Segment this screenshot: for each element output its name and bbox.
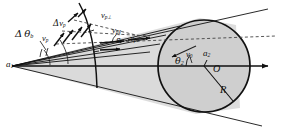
radius-label: R bbox=[220, 85, 226, 96]
apex-label: a1 bbox=[6, 60, 13, 70]
figure-canvas: a1 Δθb Δvp vp vp⊥ vp∥ vp0 ε θ2 v0 a2 O R bbox=[0, 0, 282, 133]
delta-v-lower-label: vp bbox=[42, 34, 48, 43]
diagram-vector-graphics bbox=[0, 0, 282, 133]
a2-label: a2 bbox=[203, 49, 210, 59]
v-p0-label: vp0 bbox=[130, 34, 139, 43]
v-perpendicular-label: vp⊥ bbox=[101, 11, 112, 20]
v-parallel-label: vp∥ bbox=[112, 26, 121, 35]
v0-circle-label: v0 bbox=[186, 50, 192, 59]
delta-theta-angle-arc bbox=[40, 48, 48, 57]
epsilon-label: ε bbox=[116, 36, 121, 45]
theta2-label: θ2 bbox=[175, 56, 184, 67]
delta-v-upper-label: Δvp bbox=[53, 19, 66, 28]
delta-theta-label: Δθb bbox=[15, 29, 33, 39]
center-label: O bbox=[213, 64, 220, 74]
